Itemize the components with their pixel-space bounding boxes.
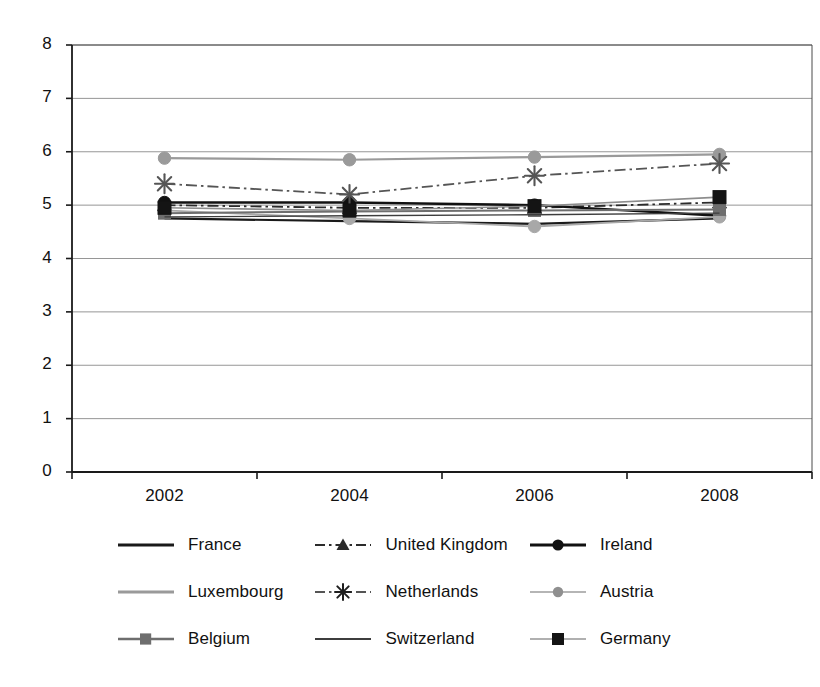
y-tick-label: 0	[18, 461, 52, 481]
series-luxembourg	[158, 148, 725, 166]
y-tick-label: 5	[18, 194, 52, 214]
chart-legend: FranceUnited KingdomIrelandLuxembourgNet…	[118, 521, 718, 662]
x-tick-label: 2006	[490, 486, 580, 506]
legend-key-line-circle-gray-icon	[530, 581, 586, 603]
y-tick-label: 4	[18, 248, 52, 268]
legend-label: Belgium	[188, 629, 250, 649]
legend-row: BelgiumSwitzerlandGermany	[118, 615, 718, 662]
legend-key-line-plain-thin-icon	[315, 628, 371, 650]
legend-label: United Kingdom	[385, 535, 507, 555]
data-series-group	[155, 148, 729, 232]
series-netherlands	[155, 154, 729, 204]
legend-item-germany[interactable]: Germany	[530, 615, 718, 662]
x-tick-label: 2004	[305, 486, 395, 506]
legend-item-united-kingdom[interactable]: United Kingdom	[315, 521, 529, 568]
legend-item-switzerland[interactable]: Switzerland	[315, 615, 529, 662]
legend-key-line-plain-light-icon	[118, 581, 174, 603]
legend-row: LuxembourgNetherlandsAustria	[118, 568, 718, 615]
y-tick-label: 2	[18, 354, 52, 374]
plot-area: 876543210 2002200420062008	[0, 0, 820, 510]
chart-figure: 876543210 2002200420062008 FranceUnited …	[0, 0, 820, 687]
legend-row: FranceUnited KingdomIreland	[118, 521, 718, 568]
y-tick-label: 8	[18, 34, 52, 54]
legend-label: Switzerland	[385, 629, 474, 649]
legend-item-austria[interactable]: Austria	[530, 568, 718, 615]
y-tick-label: 7	[18, 87, 52, 107]
legend-item-ireland[interactable]: Ireland	[530, 521, 718, 568]
legend-label: Netherlands	[385, 582, 478, 602]
legend-item-netherlands[interactable]: Netherlands	[315, 568, 529, 615]
legend-item-belgium[interactable]: Belgium	[118, 615, 315, 662]
legend-key-dashdot-asterisk-icon	[315, 581, 371, 603]
legend-item-luxembourg[interactable]: Luxembourg	[118, 568, 315, 615]
legend-key-line-circle-dark-icon	[530, 534, 586, 556]
legend-item-france[interactable]: France	[118, 521, 315, 568]
x-tick-label: 2008	[675, 486, 765, 506]
gridlines	[72, 45, 812, 419]
y-tick-label: 6	[18, 141, 52, 161]
plot-canvas	[0, 0, 820, 510]
legend-label: Austria	[600, 582, 654, 602]
legend-label: Ireland	[600, 535, 653, 555]
y-tick-label: 3	[18, 301, 52, 321]
legend-label: Germany	[600, 629, 671, 649]
legend-key-line-plain-dark-icon	[118, 534, 174, 556]
legend-label: France	[188, 535, 242, 555]
legend-label: Luxembourg	[188, 582, 284, 602]
legend-key-line-square-dark-icon	[530, 628, 586, 650]
y-tick-label: 1	[18, 408, 52, 428]
legend-key-line-square-gray-icon	[118, 628, 174, 650]
x-tick-label: 2002	[120, 486, 210, 506]
axis-ticks	[66, 45, 812, 479]
legend-key-dashdot-triangle-icon	[315, 534, 371, 556]
